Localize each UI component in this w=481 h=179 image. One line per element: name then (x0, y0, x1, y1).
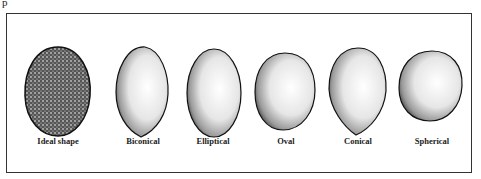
label-oval: Oval (251, 136, 321, 146)
elliptical-egg-icon (184, 46, 244, 140)
oval-egg-icon (252, 50, 318, 134)
label-conical: Conical (323, 136, 393, 146)
spherical-egg-icon (396, 48, 466, 126)
biconical-egg-icon (113, 44, 171, 140)
label-ideal-shape: Ideal shape (23, 136, 93, 146)
cropped-text-fragment: p (2, 0, 8, 8)
ideal-shape-egg-icon (22, 44, 94, 140)
label-biconical: Biconical (108, 136, 178, 146)
label-spherical: Spherical (397, 136, 467, 146)
label-elliptical: Elliptical (178, 136, 248, 146)
conical-egg-icon (326, 45, 390, 139)
